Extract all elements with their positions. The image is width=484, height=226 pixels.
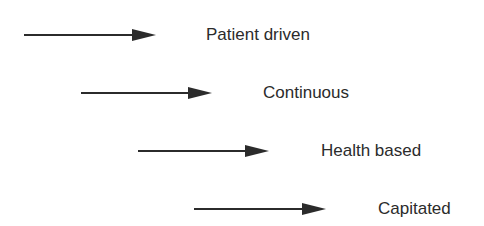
label-patient-driven: Patient driven (206, 25, 310, 45)
diagram-row-patient-driven: Patient driven (0, 25, 484, 45)
right-arrow-icon (194, 203, 326, 215)
label-capitated: Capitated (378, 199, 451, 219)
diagram-row-continuous: Continuous (0, 83, 484, 103)
label-health-based: Health based (321, 141, 421, 161)
staggered-arrow-diagram: Patient driven Continuous Health based C… (0, 0, 484, 226)
right-arrow-icon (81, 87, 212, 99)
label-continuous: Continuous (263, 83, 349, 103)
right-arrow-icon (138, 145, 269, 157)
diagram-row-health-based: Health based (0, 141, 484, 161)
diagram-row-capitated: Capitated (0, 199, 484, 219)
right-arrow-icon (24, 29, 156, 41)
